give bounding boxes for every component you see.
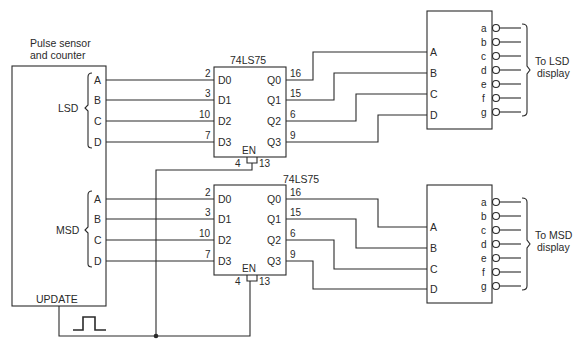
pulse-waveform-icon <box>73 317 106 330</box>
msd-display-brace <box>522 198 530 290</box>
inverter-bubble-icon <box>493 95 500 102</box>
latch-part-number: 74LS75 <box>230 54 266 66</box>
bcd-display-latch-schematic: Pulse sensor and counter LSD A B C D MSD… <box>0 0 588 352</box>
seg-b: b <box>481 37 487 48</box>
pin-d1: D1 <box>218 94 232 106</box>
inverter-bubble-icon <box>493 213 500 220</box>
dest-label-line1: To LSD <box>535 55 570 67</box>
seg-a: a <box>481 197 487 208</box>
decoder-in-c: C <box>430 263 438 275</box>
seg-g: g <box>481 107 487 118</box>
counter-title-line2: and counter <box>30 49 86 61</box>
dest-label-line2: display <box>537 67 570 79</box>
pin-num: 10 <box>199 109 211 120</box>
pin-num: 4 <box>235 276 241 287</box>
dest-label-line2: display <box>537 241 570 253</box>
pin-num: 3 <box>205 88 211 99</box>
lsd-out-d: D <box>94 136 102 148</box>
lsd-out-b: B <box>94 94 101 106</box>
seg-a: a <box>481 23 487 34</box>
decoder-in-a: A <box>430 46 437 58</box>
pin-q2: Q2 <box>267 115 281 127</box>
decoder-in-a: A <box>430 221 437 233</box>
pin-q2: Q2 <box>267 234 281 246</box>
pin-d2: D2 <box>218 234 232 246</box>
enable-label: EN <box>242 145 256 156</box>
pin-num: 9 <box>290 130 296 141</box>
msd-bus-wires <box>106 199 214 261</box>
inverter-bubble-icon <box>493 39 500 46</box>
enable-pins-bridge <box>247 275 257 281</box>
inverter-bubble-icon <box>493 283 500 290</box>
inverter-bubble-icon <box>493 241 500 248</box>
decoder-in-d: D <box>430 109 438 121</box>
lsd-out-a: A <box>94 74 101 86</box>
enable-label: EN <box>242 263 256 274</box>
pin-num: 9 <box>290 249 296 260</box>
seg-g: g <box>481 281 487 292</box>
seg-e: e <box>481 79 487 90</box>
lsd-latch-to-decoder-wires <box>286 52 427 142</box>
latch-part-number: 74LS75 <box>283 173 319 185</box>
pin-num: 6 <box>290 109 296 120</box>
inverter-bubble-icon <box>493 67 500 74</box>
msd-out-a: A <box>94 193 101 205</box>
lsd-label: LSD <box>58 102 79 114</box>
inverter-bubble-icon <box>493 109 500 116</box>
pin-num: 15 <box>290 207 302 218</box>
decoder-msd: A B C D a b c d e f g To MSD <box>427 185 573 303</box>
msd-out-c: C <box>94 234 102 246</box>
pin-d2: D2 <box>218 115 232 127</box>
latch-74ls75-lsd: 74LS75 D0 D1 D2 D3 2 3 10 7 Q0 Q1 Q2 Q3 … <box>199 54 302 169</box>
seg-c: c <box>481 51 486 62</box>
decoder-in-b: B <box>430 242 437 254</box>
pulse-sensor-counter: Pulse sensor and counter LSD A B C D MSD… <box>12 37 106 306</box>
decoder-in-c: C <box>430 88 438 100</box>
lsd-bus-wires <box>106 80 214 142</box>
pin-num: 7 <box>205 249 211 260</box>
pin-q0: Q0 <box>267 74 281 86</box>
update-label: UPDATE <box>36 293 78 305</box>
pin-num: 4 <box>235 158 241 169</box>
inverter-bubble-icon <box>493 255 500 262</box>
pin-num: 13 <box>259 276 271 287</box>
decoder-lsd: A B C D a b c d e f g To LSD <box>427 11 570 129</box>
seg-f: f <box>482 267 485 278</box>
pin-d0: D0 <box>218 193 232 205</box>
msd-out-d: D <box>94 255 102 267</box>
msd-label: MSD <box>56 224 80 236</box>
pin-q1: Q1 <box>267 94 281 106</box>
decoder-in-b: B <box>430 67 437 79</box>
pin-num: 2 <box>205 187 211 198</box>
pin-q3: Q3 <box>267 255 281 267</box>
pin-d3: D3 <box>218 255 232 267</box>
seg-d: d <box>481 239 487 250</box>
pin-num: 7 <box>205 130 211 141</box>
inverter-bubble-icon <box>493 53 500 60</box>
dest-label-line1: To MSD <box>535 229 573 241</box>
pin-d1: D1 <box>218 213 232 225</box>
counter-title-line1: Pulse sensor <box>30 37 91 49</box>
pin-d0: D0 <box>218 74 232 86</box>
decoder-in-d: D <box>430 283 438 295</box>
pin-d3: D3 <box>218 136 232 148</box>
inverter-bubble-icon <box>493 227 500 234</box>
seg-b: b <box>481 211 487 222</box>
pin-num: 16 <box>290 68 302 79</box>
seg-c: c <box>481 225 486 236</box>
pin-q1: Q1 <box>267 213 281 225</box>
seg-e: e <box>481 253 487 264</box>
pin-num: 16 <box>290 187 302 198</box>
inverter-bubble-icon <box>493 199 500 206</box>
seg-d: d <box>481 65 487 76</box>
lsd-out-c: C <box>94 115 102 127</box>
seg-f: f <box>482 93 485 104</box>
pin-num: 2 <box>205 68 211 79</box>
inverter-bubble-icon <box>493 269 500 276</box>
pin-num: 3 <box>205 207 211 218</box>
msd-latch-to-decoder-wires <box>286 199 427 289</box>
latch-74ls75-msd: 74LS75 D0 D1 D2 D3 2 3 10 7 Q0 Q1 Q2 Q3 … <box>199 173 319 287</box>
pin-q3: Q3 <box>267 136 281 148</box>
pin-num: 6 <box>290 228 296 239</box>
junction-dot <box>154 334 159 339</box>
